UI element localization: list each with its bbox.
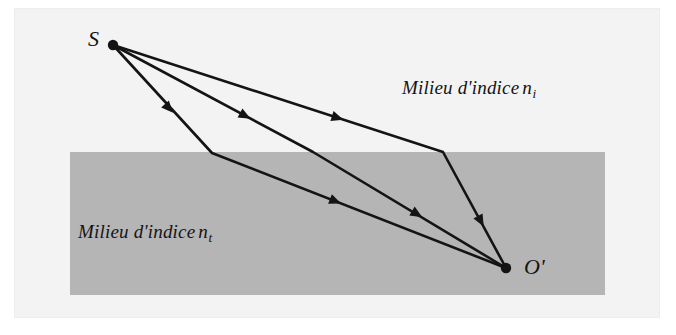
upper-medium-text: Milieu d'indice xyxy=(402,77,519,98)
lower-medium-text: Milieu d'indice xyxy=(78,221,195,242)
source-point-marker xyxy=(108,40,118,50)
image-point-marker xyxy=(501,263,511,273)
source-point-label: S xyxy=(88,28,99,50)
upper-medium-index-subscript: i xyxy=(532,86,536,101)
optics-diagram-figure: Milieu d'indiceni Milieu d'indicent S O' xyxy=(0,0,676,335)
image-point-label: O' xyxy=(524,256,545,278)
lower-medium-label: Milieu d'indicent xyxy=(78,222,212,245)
upper-medium-index-symbol: n xyxy=(519,77,532,98)
ray-3-arrow-incident xyxy=(330,111,345,125)
lower-medium-index-subscript: t xyxy=(208,230,212,245)
diagram-canvas xyxy=(0,0,676,335)
upper-medium-label: Milieu d'indiceni xyxy=(402,78,536,101)
ray-2-arrow-incident xyxy=(238,108,253,123)
lower-medium-index-symbol: n xyxy=(195,221,208,242)
